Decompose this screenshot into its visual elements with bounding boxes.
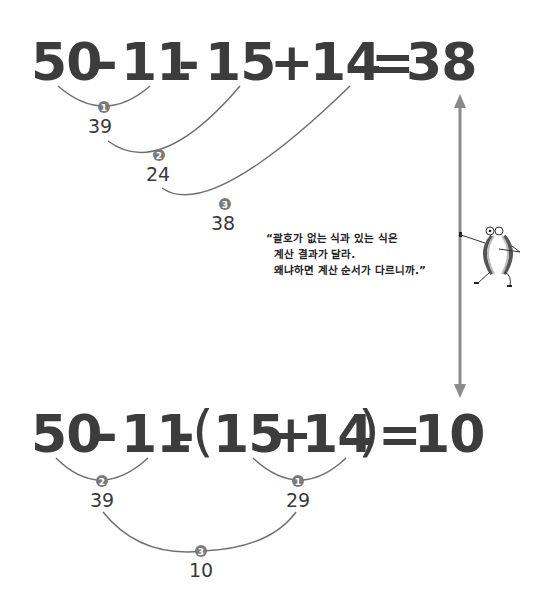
step-result-10-bottom: 10 bbox=[189, 559, 213, 581]
arc-step2-top bbox=[108, 86, 240, 152]
step-result-38-top: 38 bbox=[211, 212, 235, 234]
svg-text:2: 2 bbox=[99, 477, 105, 487]
operand-15: 15 bbox=[205, 32, 275, 92]
operator-minus: - bbox=[178, 32, 199, 92]
open-parenthesis: ( bbox=[192, 398, 213, 463]
operator-minus: - bbox=[96, 404, 117, 464]
svg-text:2: 2 bbox=[156, 151, 162, 161]
quote-line-2: 계산 결과가 달라. bbox=[266, 246, 426, 262]
operator-minus: - bbox=[96, 32, 117, 92]
result-38: 38 bbox=[406, 32, 476, 92]
quote-line-3: 왜냐하면 계산 순서가 다르니까.” bbox=[266, 262, 426, 278]
step-badge-2-bottom: 2 bbox=[96, 475, 108, 487]
svg-text:3: 3 bbox=[222, 200, 228, 210]
step-badge-2-top: 2 bbox=[153, 149, 165, 161]
parentheses-character-icon bbox=[459, 227, 520, 287]
operator-minus: - bbox=[173, 404, 194, 464]
quote-line-1: “괄호가 없는 식과 있는 식은 bbox=[266, 230, 426, 246]
operator-plus: + bbox=[270, 32, 313, 92]
step-result-39-bottom: 39 bbox=[90, 489, 114, 511]
operand-50: 50 bbox=[31, 32, 101, 92]
step-result-39-top: 39 bbox=[88, 115, 112, 137]
step-result-24-top: 24 bbox=[146, 163, 170, 185]
result-10: 10 bbox=[414, 404, 484, 464]
step-badge-1-top: 1 bbox=[98, 101, 110, 113]
step-result-29-bottom: 29 bbox=[286, 489, 310, 511]
close-parenthesis: ) bbox=[358, 398, 379, 463]
step-badge-3-top: 3 bbox=[219, 198, 231, 210]
svg-text:3: 3 bbox=[198, 547, 204, 557]
arc-step3-top bbox=[162, 86, 350, 195]
svg-text:1: 1 bbox=[295, 477, 301, 487]
speech-quote: “괄호가 없는 식과 있는 식은 계산 결과가 달라. 왜냐하면 계산 순서가 … bbox=[266, 230, 426, 278]
step-badge-3-bottom: 3 bbox=[195, 545, 207, 557]
double-arrow-icon bbox=[454, 94, 466, 398]
step-badge-1-bottom: 1 bbox=[292, 475, 304, 487]
operand-14: 14 bbox=[310, 32, 380, 92]
svg-text:1: 1 bbox=[101, 103, 107, 113]
operand-50: 50 bbox=[31, 404, 101, 464]
